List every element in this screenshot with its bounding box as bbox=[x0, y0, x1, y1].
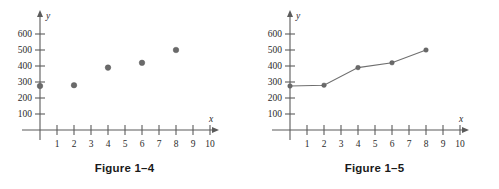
figure-panel-1-4: y x 600 500 400 300 200 100 bbox=[0, 0, 249, 189]
y-tick-label: 200 bbox=[18, 93, 33, 103]
x-tick-label: 8 bbox=[424, 139, 429, 149]
y-axis-label: y bbox=[45, 11, 51, 21]
x-tick-label: 2 bbox=[322, 139, 327, 149]
data-point bbox=[139, 60, 145, 66]
y-tick-label: 600 bbox=[268, 29, 283, 39]
y-axis-arrow-icon bbox=[37, 10, 43, 17]
x-tick-label: 6 bbox=[390, 139, 395, 149]
x-tick-labels: 1 2 3 4 5 6 7 8 9 10 bbox=[55, 139, 215, 149]
x-tick-label: 10 bbox=[205, 139, 215, 149]
x-axis-label: x bbox=[208, 114, 214, 124]
x-tick-label: 2 bbox=[72, 139, 77, 149]
x-axis-arrow-icon bbox=[462, 127, 469, 133]
y-tick-label: 400 bbox=[18, 61, 33, 71]
x-axis-label: x bbox=[458, 114, 464, 124]
x-tick-label: 7 bbox=[407, 139, 412, 149]
x-tick-label: 7 bbox=[157, 139, 162, 149]
figures-container: y x 600 500 400 300 200 100 bbox=[0, 0, 499, 189]
x-tick-label: 6 bbox=[140, 139, 145, 149]
y-tick-label: 100 bbox=[268, 109, 283, 119]
y-tick-label: 600 bbox=[18, 29, 33, 39]
x-tick-label: 8 bbox=[174, 139, 179, 149]
x-tick-label: 5 bbox=[373, 139, 378, 149]
x-tick-label: 3 bbox=[339, 139, 344, 149]
y-tick-label: 400 bbox=[268, 61, 283, 71]
x-tick-labels: 1 2 3 4 5 6 7 8 9 10 bbox=[305, 139, 465, 149]
y-tick-label: 200 bbox=[268, 93, 283, 103]
plot-figure-1-4: y x 600 500 400 300 200 100 bbox=[0, 0, 249, 162]
y-tick-label: 500 bbox=[18, 45, 33, 55]
data-point bbox=[424, 48, 429, 53]
data-point bbox=[105, 65, 111, 71]
data-point bbox=[71, 82, 77, 88]
x-tick-label: 4 bbox=[106, 139, 111, 149]
data-series-line bbox=[288, 48, 429, 89]
x-tick-label: 3 bbox=[89, 139, 94, 149]
data-point bbox=[173, 47, 179, 53]
y-tick-label: 300 bbox=[268, 77, 283, 87]
y-tick-label: 500 bbox=[268, 45, 283, 55]
data-series-scatter bbox=[37, 47, 179, 89]
x-tick-label: 1 bbox=[305, 139, 310, 149]
y-tick-label: 100 bbox=[18, 109, 33, 119]
y-axis-group: y bbox=[287, 10, 301, 140]
figure-caption: Figure 1–5 bbox=[250, 162, 499, 174]
plot-figure-1-5: y x 600 500 400 300 200 100 bbox=[250, 0, 499, 162]
data-point bbox=[390, 61, 395, 66]
x-axis-arrow-icon bbox=[212, 127, 219, 133]
x-tick-label: 5 bbox=[123, 139, 128, 149]
data-point bbox=[322, 83, 327, 88]
x-tick-label: 1 bbox=[55, 139, 60, 149]
y-axis-label: y bbox=[295, 11, 301, 21]
x-axis-group: x bbox=[22, 114, 219, 133]
data-point bbox=[288, 84, 293, 89]
y-axis-group: y bbox=[37, 10, 51, 140]
y-tick-labels: 600 500 400 300 200 100 bbox=[18, 29, 33, 119]
figure-panel-1-5: y x 600 500 400 300 200 100 bbox=[250, 0, 499, 189]
x-axis-group: x bbox=[272, 114, 469, 133]
y-tick-label: 300 bbox=[18, 77, 33, 87]
data-point bbox=[356, 65, 361, 70]
x-tick-label: 9 bbox=[441, 139, 446, 149]
x-tick-label: 4 bbox=[356, 139, 361, 149]
x-tick-label: 9 bbox=[191, 139, 196, 149]
y-tick-labels: 600 500 400 300 200 100 bbox=[268, 29, 283, 119]
data-point bbox=[37, 83, 43, 89]
figure-caption: Figure 1–4 bbox=[0, 162, 249, 174]
y-axis-arrow-icon bbox=[287, 10, 293, 17]
x-tick-label: 10 bbox=[455, 139, 465, 149]
